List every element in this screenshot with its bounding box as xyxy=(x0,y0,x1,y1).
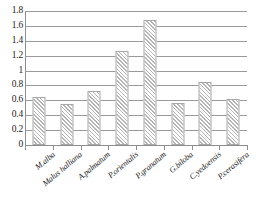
y-axis-tick-label: 0.6 xyxy=(12,96,23,106)
y-axis-tick-label: 0 xyxy=(18,140,23,150)
bar xyxy=(199,82,212,145)
y-axis-tick-label: 1.6 xyxy=(12,21,23,31)
bar xyxy=(88,91,101,145)
x-axis-tick xyxy=(247,146,248,150)
y-axis-tick-label: 1.4 xyxy=(12,36,23,46)
x-axis-tick xyxy=(53,146,54,150)
y-axis-tick-label: 0.8 xyxy=(12,81,23,91)
bar xyxy=(227,99,240,145)
bar xyxy=(171,103,184,145)
y-axis-tick-label: 1.8 xyxy=(12,6,23,16)
x-axis-tick xyxy=(219,146,220,150)
bar xyxy=(60,104,73,145)
y-axis-tick-label: 1 xyxy=(18,66,23,76)
bar-slot xyxy=(25,11,53,145)
x-axis-tick xyxy=(164,146,165,150)
x-axis-tick xyxy=(108,146,109,150)
y-axis-tick-label: 1.2 xyxy=(12,51,23,61)
bar-slot xyxy=(164,11,192,145)
x-axis-tick xyxy=(192,146,193,150)
bar xyxy=(32,97,45,145)
x-axis-category-label: M.alba xyxy=(33,150,56,172)
x-axis-tick xyxy=(25,146,26,150)
x-axis-category-labels: M.albaMalus hallianaA.palmatumP.oriental… xyxy=(25,150,248,205)
bar-chart: 00.20.40.60.811.21.41.61.8 M.albaMalus h… xyxy=(0,0,258,205)
plot-area xyxy=(25,11,247,145)
bar xyxy=(116,51,129,145)
x-axis-tick xyxy=(81,146,82,150)
bar-series xyxy=(25,11,247,145)
bar-slot xyxy=(219,11,247,145)
bar xyxy=(143,20,156,145)
y-axis-tick-label: 0.4 xyxy=(12,110,23,120)
y-axis-tick-labels: 00.20.40.60.811.21.41.61.8 xyxy=(0,0,24,152)
y-axis-tick-label: 0.2 xyxy=(12,125,23,135)
bar-slot xyxy=(108,11,136,145)
bar-slot xyxy=(81,11,109,145)
bar-slot xyxy=(53,11,81,145)
bar-slot xyxy=(136,11,164,145)
x-axis-tick xyxy=(136,146,137,150)
bar-slot xyxy=(192,11,220,145)
